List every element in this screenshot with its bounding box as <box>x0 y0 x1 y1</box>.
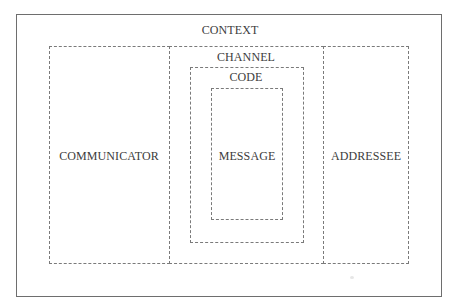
context-label: CONTEXT <box>202 23 259 37</box>
code-label: CODE <box>229 70 262 84</box>
message-label: MESSAGE <box>219 149 276 163</box>
scan-smudge <box>350 276 354 279</box>
communicator-label: COMMUNICATOR <box>59 149 159 163</box>
addressee-label: ADDRESSEE <box>331 149 401 163</box>
channel-label: CHANNEL <box>217 50 275 64</box>
